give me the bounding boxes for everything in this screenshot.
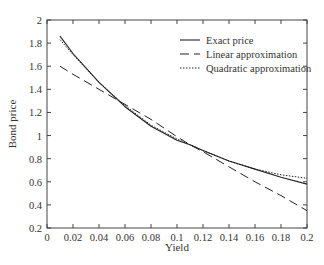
x-tick-label: 0.08 — [142, 232, 160, 243]
x-tick-label: 0.14 — [220, 232, 239, 243]
y-tick-label: 1.8 — [29, 38, 42, 49]
x-tick-label: 0.16 — [246, 232, 264, 243]
x-tick-label: 0.04 — [90, 232, 109, 243]
y-tick-label: 2 — [37, 15, 42, 26]
x-tick-label: 0.06 — [116, 232, 134, 243]
x-tick-label: 0.02 — [64, 232, 82, 243]
y-tick-label: 1 — [37, 131, 42, 142]
x-tick-label: 0.2 — [300, 232, 313, 243]
legend-label: Quadratic approximation — [206, 63, 312, 74]
x-tick-label: 0.18 — [272, 232, 290, 243]
y-tick-label: 1.4 — [29, 84, 43, 95]
y-tick-label: 1.6 — [29, 61, 42, 72]
y-axis-label: Bond price — [6, 100, 18, 149]
legend: Exact priceLinear approximationQuadratic… — [180, 35, 312, 74]
y-tick-label: 0.6 — [29, 177, 42, 188]
x-tick-label: 0 — [44, 232, 49, 243]
y-tick-label: 1.2 — [29, 107, 42, 118]
x-axis-label: Yield — [165, 241, 189, 253]
series-line-dashed — [60, 66, 307, 211]
y-tick-label: 0.4 — [29, 200, 43, 211]
x-tick-label: 0.12 — [194, 232, 212, 243]
series-line-dotted — [60, 40, 307, 179]
bond-price-chart: 00.020.040.060.080.10.120.140.160.180.2 … — [0, 0, 324, 265]
y-tick-label: 0.2 — [29, 223, 42, 234]
y-tick-label: 0.8 — [29, 154, 42, 165]
legend-label: Exact price — [206, 35, 254, 46]
legend-label: Linear approximation — [206, 49, 298, 60]
